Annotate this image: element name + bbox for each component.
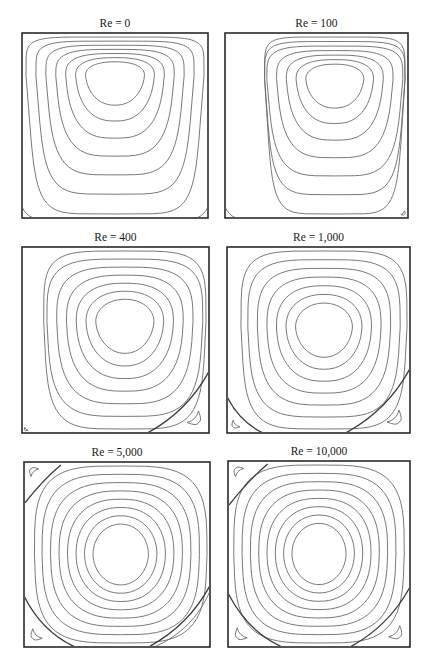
panel-re-400: Re = 400 xyxy=(22,231,209,433)
panel-title: Re = 5,000 xyxy=(92,446,143,459)
panel-re-0: Re = 0 xyxy=(22,17,208,218)
panel-title: Re = 10,000 xyxy=(291,445,348,458)
panel-title: Re = 400 xyxy=(94,231,137,243)
panel-re-1000: Re = 1,000 xyxy=(227,231,410,433)
panel-title: Re = 100 xyxy=(295,17,338,29)
panel-re-10000: Re = 10,000 xyxy=(228,445,410,647)
cavity-boundary xyxy=(228,461,410,647)
panel-re-100: Re = 100 xyxy=(225,17,408,218)
cavity-flow-figure: Re = 0 Re = 100 Re = 400 Re = 1,000 Re =… xyxy=(0,0,430,666)
panel-re-5000: Re = 5,000 xyxy=(24,446,210,647)
cavity-boundary xyxy=(22,33,208,218)
panel-title: Re = 0 xyxy=(100,17,131,29)
panel-title: Re = 1,000 xyxy=(293,231,344,244)
